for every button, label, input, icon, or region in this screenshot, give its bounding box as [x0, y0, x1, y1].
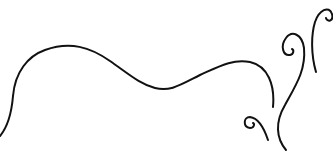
background	[0, 0, 333, 157]
flourish-artwork	[0, 0, 333, 157]
